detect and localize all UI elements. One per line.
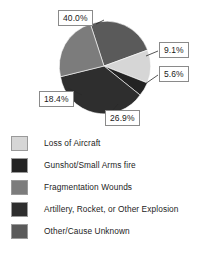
legend-item-loss-of-aircraft[interactable]: Loss of Aircraft [0,132,208,154]
chart-legend: Loss of Aircraft Gunshot/Small Arms fire… [0,130,208,259]
legend-item-artillery-rocket-explosion[interactable]: Artillery, Rocket, or Other Explosion [0,198,208,220]
legend-swatch-loss-of-aircraft [11,136,28,151]
legend-item-gunshot-small-arms-fire[interactable]: Gunshot/Small Arms fire [0,154,208,176]
pie-svg [0,0,208,128]
legend-label-artillery-rocket-explosion: Artillery, Rocket, or Other Explosion [44,204,179,215]
legend-label-loss-of-aircraft: Loss of Aircraft [44,138,100,149]
legend-label-gunshot-small-arms-fire: Gunshot/Small Arms fire [44,160,136,171]
pie-plot-area: 40.0% 9.1% 5.6% 18.4% 26.9% [0,0,208,128]
legend-swatch-artillery-rocket-explosion [11,202,28,217]
pie-chart-figure: 40.0% 9.1% 5.6% 18.4% 26.9% Loss of Airc… [0,0,208,259]
callout-gunshot-small-arms-fire: 5.6% [159,66,189,82]
legend-item-fragmentation-wounds[interactable]: Fragmentation Wounds [0,176,208,198]
legend-swatch-fragmentation-wounds [11,180,28,195]
legend-label-other-cause-unknown: Other/Cause Unknown [44,226,130,237]
callout-loss-of-aircraft: 9.1% [159,42,189,58]
legend-swatch-gunshot-small-arms-fire [11,158,28,173]
legend-swatch-other-cause-unknown [11,224,28,239]
legend-item-other-cause-unknown[interactable]: Other/Cause Unknown [0,220,208,242]
callout-other-cause-unknown: 40.0% [58,10,93,26]
callout-artillery-rocket-explosion: 26.9% [105,110,140,126]
callout-fragmentation-wounds: 18.4% [39,91,74,107]
legend-label-fragmentation-wounds: Fragmentation Wounds [44,182,132,193]
